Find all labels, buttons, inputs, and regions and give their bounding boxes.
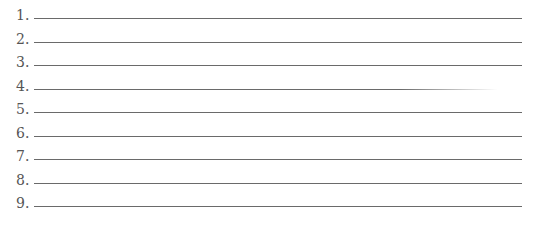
item-number: 8. xyxy=(16,173,29,187)
list-item: 1. xyxy=(0,0,536,24)
blank-answer-line xyxy=(34,183,522,184)
list-item: 5. xyxy=(0,94,536,118)
item-number: 3. xyxy=(16,55,29,69)
list-item: 9. xyxy=(0,188,536,212)
item-number: 4. xyxy=(16,79,29,93)
blank-answer-line xyxy=(34,65,522,66)
list-item: 4. xyxy=(0,71,536,95)
blank-answer-line xyxy=(34,159,522,160)
list-item: 2. xyxy=(0,24,536,48)
blank-answer-line xyxy=(34,112,522,113)
list-item: 6. xyxy=(0,118,536,142)
list-item: 8. xyxy=(0,165,536,189)
item-number: 2. xyxy=(16,32,29,46)
item-number: 7. xyxy=(16,149,29,163)
item-number: 5. xyxy=(16,102,29,116)
list-item: 3. xyxy=(0,47,536,71)
blank-answer-line xyxy=(34,89,522,90)
blank-answer-line xyxy=(34,18,522,19)
item-number: 6. xyxy=(16,126,29,140)
item-number: 9. xyxy=(16,196,29,210)
list-item: 7. xyxy=(0,141,536,165)
item-number: 1. xyxy=(16,8,29,22)
blank-answer-line xyxy=(34,136,522,137)
blank-answer-line xyxy=(34,42,522,43)
blank-answer-line xyxy=(34,206,522,207)
